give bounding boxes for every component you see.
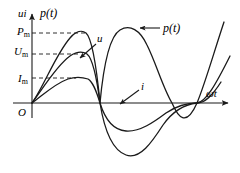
y-tick-label-pm: Pm <box>17 26 30 39</box>
y-axis-label: ui <box>18 8 27 19</box>
y-tick-pm-sub: m <box>24 30 30 39</box>
voltage-curve-label: u <box>97 33 103 44</box>
origin-label: O <box>18 107 26 118</box>
y-tick-label-im: Im <box>18 73 28 86</box>
power-curve-label: p(t) <box>163 22 180 34</box>
current-curve-label: i <box>141 81 144 92</box>
plot-canvas <box>0 0 240 173</box>
current-leader-arrow <box>120 90 139 104</box>
voltage-curve <box>32 52 230 156</box>
y-tick-label-um: Um <box>14 46 28 59</box>
y-tick-um-sub: m <box>22 50 28 59</box>
y-axis-secondary-label: p(t) <box>40 7 57 19</box>
y-tick-im-sub: m <box>22 77 28 86</box>
x-axis-label: ωt <box>206 88 217 99</box>
y-tick-pm-main: P <box>17 25 24 37</box>
waveform-figure: ui p(t) Pm Um Im O u p(t) i ωt <box>0 0 240 173</box>
y-tick-um-main: U <box>14 45 22 57</box>
